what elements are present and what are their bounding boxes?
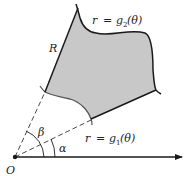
svg-text:g: g — [116, 14, 123, 27]
inner-curve-label: r = g 1 (θ) — [85, 132, 135, 147]
svg-text:(θ): (θ) — [120, 132, 135, 145]
region-label: R — [48, 42, 57, 55]
svg-text:=: = — [103, 14, 112, 27]
angle-beta-label: β — [37, 126, 44, 139]
ray-beta-dashed — [15, 92, 45, 157]
angle-arc-alpha — [51, 139, 55, 157]
svg-text:(θ): (θ) — [127, 14, 142, 27]
origin-point — [13, 155, 17, 159]
outer-curve-label: r = g 2 (θ) — [92, 14, 142, 29]
ray-alpha-dashed — [15, 120, 91, 157]
angle-alpha-label: α — [59, 142, 67, 155]
svg-text:=: = — [96, 132, 105, 145]
svg-text:r: r — [85, 132, 91, 145]
polar-region-diagram: R r = g 2 (θ) r = g 1 (θ) β α O — [0, 0, 185, 176]
svg-text:r: r — [92, 14, 98, 27]
svg-text:g: g — [109, 132, 116, 145]
origin-label: O — [6, 164, 15, 176]
